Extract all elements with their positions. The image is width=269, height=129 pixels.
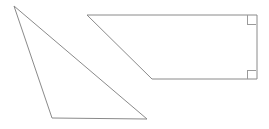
geometry-figure-svg [0, 0, 269, 129]
right-angle-mark-top-right-icon [247, 15, 256, 24]
right-angle-mark-bottom-right-icon [247, 70, 256, 79]
figure-canvas [0, 0, 269, 129]
scalene-triangle-shape [14, 6, 147, 119]
right-trapezoid-shape [87, 15, 257, 79]
